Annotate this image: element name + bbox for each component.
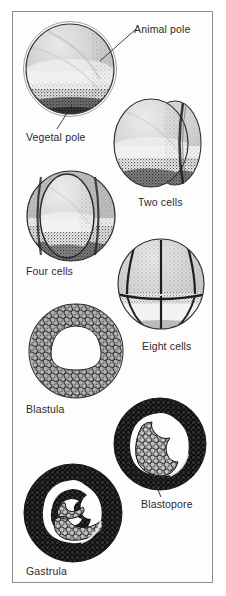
two-cell-illustration [113,96,205,192]
animal-pole-leader-line [86,26,138,68]
four-cell-illustration [21,166,121,266]
vegetal-pole-leader-line [50,103,80,131]
two-cells-label: Two cells [138,197,183,208]
four-cells-label: Four cells [26,266,73,277]
vegetal-pole-label: Vegetal pole [26,132,86,143]
blastopore-label: Blastopore [141,499,193,510]
blastopore-leader-line [148,473,170,499]
gastrula-label: Gastrula [26,566,67,577]
animal-pole-label: Animal pole [134,24,191,35]
eight-cells-label: Eight cells [142,341,192,352]
gastrula-illustration [21,461,125,565]
eight-cell-illustration [113,232,211,336]
blastula-illustration [26,300,126,400]
embryo-development-figure: Animal pole Vegetal pole [0,0,226,596]
blastula-label: Blastula [26,404,65,415]
